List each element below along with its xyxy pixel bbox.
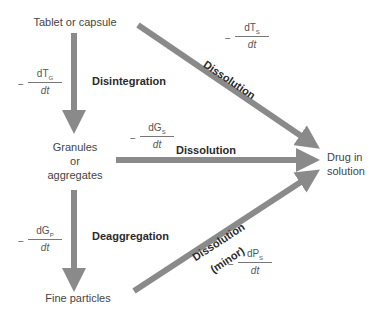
granules-node: Granules or aggregates	[40, 140, 110, 182]
tablet-node: Tablet or capsule	[30, 15, 120, 29]
drug-line-1: Drug in	[327, 150, 377, 164]
rate-denominator: dt	[238, 265, 272, 276]
fraction-bar	[238, 262, 272, 263]
drug-in-solution-node: Drug in solution	[327, 150, 377, 178]
granules-line-1: Granules	[40, 140, 110, 154]
minus-sign: −	[225, 33, 231, 44]
minus-sign: −	[228, 259, 234, 270]
fraction-bar	[28, 82, 62, 83]
rate-gs: − dGS dt	[130, 122, 176, 154]
minus-sign: −	[18, 79, 24, 90]
drug-line-2: solution	[327, 164, 377, 178]
rate-gp: − dGP dt	[18, 225, 64, 257]
fraction-bar	[235, 36, 269, 37]
minus-sign: −	[18, 236, 24, 247]
rate-denominator: dt	[140, 139, 174, 150]
deaggregation-label: Deaggregation	[92, 230, 169, 242]
dissolution-middle-label: Dissolution	[176, 144, 236, 156]
rate-ps: − dPS dt	[228, 248, 274, 280]
fraction-bar	[140, 136, 174, 137]
rate-numerator: dPS	[238, 248, 272, 261]
fine-particles-node: Fine particles	[38, 291, 118, 305]
rate-numerator: dTG	[28, 68, 62, 81]
rate-denominator: dt	[28, 242, 62, 253]
granules-line-2: or	[40, 154, 110, 168]
fraction-bar	[28, 239, 62, 240]
rate-denominator: dt	[235, 39, 269, 50]
rate-numerator: dGP	[28, 225, 62, 238]
minus-sign: −	[130, 133, 136, 144]
rate-numerator: dTS	[235, 22, 269, 35]
rate-denominator: dt	[28, 85, 62, 96]
rate-tg: − dTG dt	[18, 68, 64, 100]
rate-numerator: dGS	[140, 122, 174, 135]
disintegration-label: Disintegration	[92, 75, 166, 87]
rate-ts: − dTS dt	[225, 22, 271, 54]
granules-line-3: aggregates	[40, 168, 110, 182]
